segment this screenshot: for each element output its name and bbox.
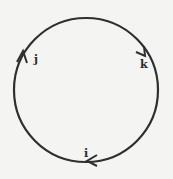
node-label-j: j [34,54,38,65]
arrow-k-icon [136,46,145,56]
cycle-diagram: j k i [0,0,173,179]
node-label-k: k [140,59,148,70]
circle-path [14,18,158,162]
node-label-i: i [84,148,88,159]
